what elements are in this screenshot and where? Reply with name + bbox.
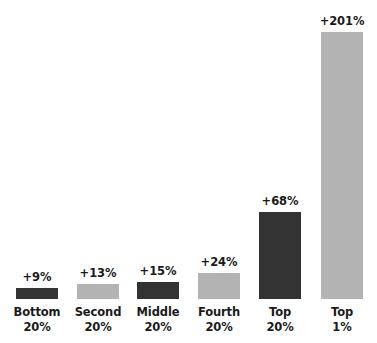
bar-fourth-20[interactable]	[198, 273, 240, 299]
bar-top-20[interactable]	[259, 212, 301, 299]
x-label-middle-20: Middle 20%	[123, 305, 193, 335]
x-label-line1: Fourth	[184, 305, 254, 320]
bar-value-label: +201%	[307, 14, 377, 28]
x-label-top-20: Top 20%	[245, 305, 315, 335]
x-label-line1: Top	[307, 305, 377, 320]
bar-value-label: +24%	[184, 255, 254, 269]
bar-group-middle-20: +15%	[137, 0, 179, 299]
bar-top-1[interactable]	[321, 32, 363, 299]
bar-group-top-1: +201%	[321, 0, 363, 299]
x-label-line2: 20%	[245, 320, 315, 335]
x-label-line2: 20%	[123, 320, 193, 335]
x-label-fourth-20: Fourth 20%	[184, 305, 254, 335]
bar-group-bottom-20: +9%	[16, 0, 58, 299]
bar-group-second-20: +13%	[77, 0, 119, 299]
bar-group-top-20: +68%	[259, 0, 301, 299]
bar-value-label: +9%	[2, 270, 72, 284]
x-label-line2: 20%	[2, 320, 72, 335]
bar-middle-20[interactable]	[137, 282, 179, 299]
bar-group-fourth-20: +24%	[198, 0, 240, 299]
x-label-line1: Bottom	[2, 305, 72, 320]
plot-area: +9% +13% +15% +24% +68% +201%	[0, 0, 377, 299]
bar-second-20[interactable]	[77, 284, 119, 299]
bar-value-label: +15%	[123, 264, 193, 278]
x-label-line2: 1%	[307, 320, 377, 335]
bar-value-label: +68%	[245, 194, 315, 208]
x-label-line1: Top	[245, 305, 315, 320]
x-label-line2: 20%	[184, 320, 254, 335]
bar-chart: +9% +13% +15% +24% +68% +201%	[0, 0, 377, 343]
x-label-bottom-20: Bottom 20%	[2, 305, 72, 335]
x-axis-labels: Bottom 20% Second 20% Middle 20% Fourth …	[0, 299, 377, 343]
x-label-line1: Middle	[123, 305, 193, 320]
bar-bottom-20[interactable]	[16, 288, 58, 299]
x-label-top-1: Top 1%	[307, 305, 377, 335]
